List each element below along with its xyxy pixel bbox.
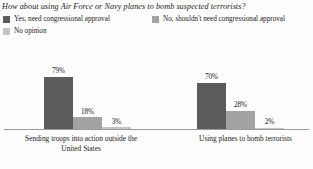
category-label-sending-troops: Sending troops into action outside the U… xyxy=(14,134,148,153)
bar-value-label: 2% xyxy=(255,118,284,127)
legend-label-no-need-approval: No, shouldn't need congressional approva… xyxy=(163,15,285,24)
chart-title: How about using Air Force or Navy planes… xyxy=(0,0,313,12)
legend-label-yes-need-approval: Yes, need congressional approval xyxy=(14,15,110,24)
x-axis-line xyxy=(4,129,309,130)
legend-item-no-opinion: No opinion xyxy=(3,27,47,36)
chart-plot-area: 79% 18% 3% 70% 28% 2% xyxy=(0,46,313,130)
bar-value-label: 3% xyxy=(102,118,131,127)
x-axis-category-labels: Sending troops into action outside the U… xyxy=(0,132,313,169)
legend-item-yes-need-approval: Yes, need congressional approval xyxy=(3,15,110,24)
bar xyxy=(73,117,102,129)
chart-legend: Yes, need congressional approval No, sho… xyxy=(0,14,313,40)
bar-value-label: 28% xyxy=(226,101,255,110)
bar-value-label: 79% xyxy=(44,67,73,76)
bar-slot: 79% xyxy=(44,77,73,129)
legend-swatch-no-need-approval xyxy=(152,16,159,23)
legend-item-no-need-approval: No, shouldn't need congressional approva… xyxy=(152,15,285,24)
bar-slot: 18% xyxy=(73,117,102,129)
bar-value-label: 18% xyxy=(73,108,102,117)
bar-value-label: 70% xyxy=(197,73,226,82)
bar-slot: 70% xyxy=(197,83,226,129)
bar xyxy=(44,77,73,129)
legend-swatch-no-opinion xyxy=(3,28,10,35)
legend-swatch-yes-need-approval xyxy=(3,16,10,23)
bar xyxy=(197,83,226,129)
category-label-using-planes: Using planes to bomb terrorists xyxy=(180,134,311,144)
bar-slot: 28% xyxy=(226,111,255,129)
bar xyxy=(226,111,255,129)
legend-label-no-opinion: No opinion xyxy=(14,27,47,36)
